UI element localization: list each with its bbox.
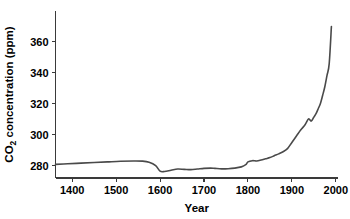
- x-tick-label: 1400: [60, 184, 84, 196]
- x-tick-label: 1900: [280, 184, 304, 196]
- x-axis-title: Year: [185, 202, 210, 214]
- x-tick-label: 1600: [148, 184, 172, 196]
- y-tick-label: 300: [30, 129, 48, 141]
- x-axis-ticks: 1400150016001700180019002000: [60, 178, 348, 196]
- co2-line-series: [56, 26, 332, 171]
- y-tick-label: 340: [30, 67, 48, 79]
- y-axis-title-rest: concentration (ppm): [3, 26, 15, 141]
- x-tick-label: 2000: [324, 184, 348, 196]
- data-series-group: [56, 26, 332, 171]
- x-tick-label: 1800: [236, 184, 260, 196]
- y-axis-title-main: CO: [3, 145, 15, 162]
- x-tick-label: 1500: [104, 184, 128, 196]
- y-tick-label: 360: [30, 36, 48, 48]
- y-tick-label: 280: [30, 160, 48, 172]
- y-tick-label: 320: [30, 98, 48, 110]
- y-axis-title: CO2 concentration (ppm): [3, 26, 18, 163]
- axes-group: [56, 11, 339, 178]
- co2-concentration-chart: 280300320340360 140015001600170018001900…: [0, 0, 350, 219]
- y-axis-ticks: 280300320340360: [30, 36, 55, 172]
- x-tick-label: 1700: [192, 184, 216, 196]
- chart-canvas: 280300320340360 140015001600170018001900…: [0, 0, 350, 219]
